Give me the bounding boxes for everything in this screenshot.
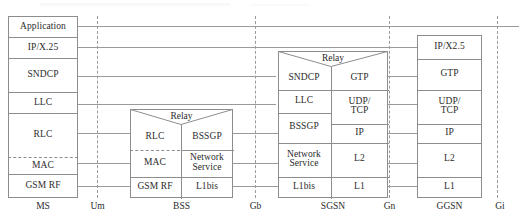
- bss-layer-mac: MAC: [130, 149, 180, 176]
- peer-line-mac: [78, 163, 130, 164]
- peer-line-gsmrf: [78, 186, 130, 187]
- node-label-sgsn: SGSN: [278, 201, 388, 211]
- sgsn-layer-l2: L2: [331, 142, 388, 176]
- bss-layer-network-service: Network Service: [181, 149, 233, 176]
- ggsn-layer-ip: IP: [417, 123, 482, 142]
- ggsn-layer-udp-tcp: UDP/ TCP: [417, 89, 482, 123]
- bss-layer-bssgp: BSSGP: [181, 124, 233, 149]
- sgsn-layer-udp-tcp: UDP/ TCP: [331, 89, 388, 123]
- sgsn-layer-bssgp: BSSGP: [278, 112, 330, 142]
- peer-line-application: [78, 26, 519, 27]
- ms-layer-gsm-rf: GSM RF: [8, 174, 78, 198]
- interface-separator-gn: [389, 16, 390, 198]
- sgsn-layer-network-service: Network Service: [278, 142, 330, 176]
- sgsn-layer-sndcp: SNDCP: [278, 66, 330, 89]
- ggsn-layer-ip-x25: IP/X2.5: [417, 35, 482, 58]
- bss-network-service-line2: Service: [192, 163, 221, 173]
- ms-layer-application: Application: [8, 16, 78, 37]
- sgsn-layer-l1bis: L1bis: [278, 176, 330, 198]
- interface-label-gb: Gb: [240, 201, 271, 211]
- scan-artifact: [40, 3, 230, 6]
- sgsn-udptcp-line2: TCP: [351, 106, 369, 116]
- node-label-ms: MS: [8, 201, 78, 211]
- node-label-ggsn: GGSN: [417, 201, 482, 211]
- ms-layer-mac: MAC: [8, 157, 78, 174]
- bss-layer-gsm-rf: GSM RF: [130, 176, 180, 198]
- sgsn-relay-label: Relay: [278, 53, 388, 63]
- interface-separator-gi: [497, 16, 498, 198]
- sgsn-network-service-line2: Service: [289, 159, 318, 169]
- peer-line-ip-x25: [78, 47, 417, 48]
- bss-layer-rlc: RLC: [130, 124, 180, 149]
- ms-layer-ip-x25: IP/X.25: [8, 37, 78, 58]
- node-label-bss: BSS: [130, 201, 233, 211]
- sgsn-layer-ip: IP: [331, 123, 388, 142]
- interface-label-um: Um: [82, 201, 113, 211]
- gprs-protocol-stack-diagram: Application IP/X.25 SNDCP LLC RLC MAC GS…: [0, 0, 519, 220]
- ggsn-layer-gtp: GTP: [417, 58, 482, 89]
- sgsn-layer-gtp: GTP: [331, 66, 388, 89]
- ms-layer-sndcp: SNDCP: [8, 58, 78, 92]
- bss-layer-l1bis: L1bis: [181, 176, 233, 198]
- peer-line-llc: [78, 104, 276, 105]
- peer-line-sndcp: [78, 76, 276, 77]
- ms-layer-rlc: RLC: [8, 113, 78, 157]
- interface-separator-um: [97, 16, 98, 198]
- ggsn-layer-l1: L1: [417, 176, 482, 198]
- sgsn-layer-l1: L1: [331, 176, 388, 198]
- scan-artifact: [250, 4, 310, 6]
- ggsn-layer-l2: L2: [417, 142, 482, 176]
- ms-layer-llc: LLC: [8, 92, 78, 113]
- interface-label-gi: Gi: [488, 201, 512, 211]
- ggsn-udptcp-line2: TCP: [441, 106, 459, 116]
- bss-relay-label: Relay: [130, 111, 233, 121]
- peer-line-rlc: [78, 133, 130, 134]
- sgsn-layer-llc: LLC: [278, 89, 330, 112]
- interface-separator-gb: [255, 16, 256, 198]
- interface-label-gn: Gn: [374, 201, 405, 211]
